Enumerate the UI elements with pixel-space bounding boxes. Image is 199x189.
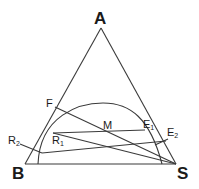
ternary-diagram — [0, 0, 199, 189]
tie-line-r1-e1 — [53, 130, 145, 133]
point-label-r1: R1 — [52, 135, 64, 147]
point-label-m: M — [103, 120, 112, 131]
point-label-f: F — [46, 98, 53, 109]
vertex-label-a: A — [94, 10, 106, 27]
point-label-e1: E1 — [143, 119, 154, 131]
line-f-s — [55, 107, 176, 164]
leader-r2 — [20, 144, 42, 153]
vertex-label-s: S — [177, 165, 188, 182]
vertex-label-b: B — [12, 165, 24, 182]
point-label-r2: R2 — [8, 135, 20, 147]
point-label-e2: E2 — [167, 127, 178, 139]
